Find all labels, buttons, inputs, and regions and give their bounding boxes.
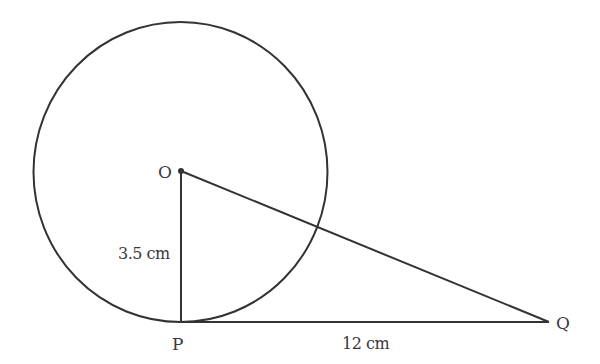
label-o: O <box>158 162 172 182</box>
center-point-o <box>178 168 184 174</box>
label-op-length: 3.5 cm <box>118 244 170 263</box>
line-oq <box>181 171 549 322</box>
geometry-diagram: O P Q 3.5 cm 12 cm <box>0 0 600 364</box>
label-pq-length: 12 cm <box>342 334 389 353</box>
label-q: Q <box>556 313 570 333</box>
label-p: P <box>172 334 183 354</box>
